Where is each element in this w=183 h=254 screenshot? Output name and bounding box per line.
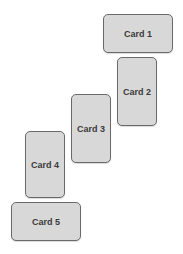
card-4[interactable]: Card 4 bbox=[25, 131, 65, 198]
card-1-label: Card 1 bbox=[124, 29, 152, 39]
card-1[interactable]: Card 1 bbox=[103, 14, 173, 53]
card-4-label: Card 4 bbox=[31, 160, 59, 170]
card-3[interactable]: Card 3 bbox=[71, 94, 111, 163]
card-5-label: Card 5 bbox=[32, 217, 60, 227]
card-5[interactable]: Card 5 bbox=[11, 202, 81, 241]
card-3-label: Card 3 bbox=[77, 124, 105, 134]
card-2[interactable]: Card 2 bbox=[117, 57, 157, 126]
card-2-label: Card 2 bbox=[123, 87, 151, 97]
